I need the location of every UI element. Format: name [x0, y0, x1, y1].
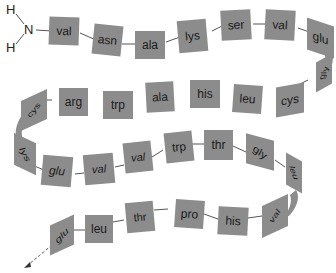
residue-12: ala: [145, 81, 175, 112]
residue-1: val: [49, 16, 80, 45]
residue-13: trp: [103, 91, 133, 119]
residue-21: thr: [204, 130, 233, 160]
residue-5: ser: [220, 9, 252, 41]
residue-14: arg: [59, 88, 88, 116]
residue-25: his: [217, 206, 248, 236]
residue-4: lys: [177, 19, 209, 53]
residue-10: leu: [232, 84, 263, 114]
residue-28: leu: [85, 215, 113, 243]
hydrogen-atom-top: H: [6, 2, 15, 17]
residue-9: cys: [276, 83, 304, 118]
residue-18: val: [83, 153, 116, 186]
hydrogen-atom-bottom: H: [6, 40, 15, 55]
residue-3: ala: [135, 31, 165, 59]
residue-17: glu: [41, 155, 74, 188]
residue-26: pro: [174, 199, 205, 229]
residue-20: trp: [164, 131, 195, 164]
residue-27: thr: [125, 201, 156, 233]
residue-6: val: [264, 9, 296, 41]
residue-19: val: [123, 141, 154, 174]
residue-11: his: [190, 80, 220, 108]
polypeptide-diagram: H N H val asn ala lys ser val glu gly cy…: [0, 0, 336, 273]
residue-2: asn: [92, 24, 124, 57]
nitrogen-atom: N: [24, 22, 33, 37]
